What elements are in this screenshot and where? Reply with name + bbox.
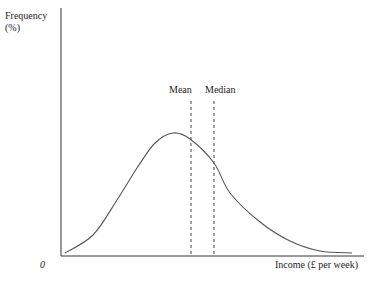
chart-canvas bbox=[0, 0, 384, 286]
distribution-curve bbox=[65, 133, 352, 253]
